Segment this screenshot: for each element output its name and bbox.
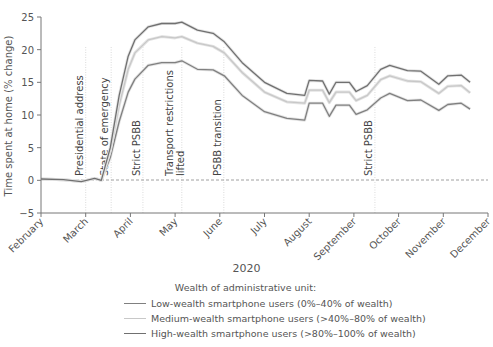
legend: Wealth of administrative unit: Low-wealt… [0,282,493,293]
x-tick-label: July [248,216,269,237]
y-tick-label: 20 [21,45,34,56]
event-label: Strict PSBB [131,120,142,176]
legend-swatch [124,303,146,304]
y-tick-label: 10 [21,110,34,121]
y-tick-label: 25 [21,12,34,23]
legend-label: Medium-wealth smartphone users (>40%–80%… [151,313,426,324]
legend-item-high-wealth: High-wealth smartphone users (>80%–100% … [124,328,416,339]
y-axis: −50510152025 [19,12,41,219]
legend-label: Low-wealth smartphone users (0%–40% of w… [151,298,392,309]
legend-item-low-wealth: Low-wealth smartphone users (0%–40% of w… [124,298,392,309]
y-tick-label: 0 [28,175,34,186]
x-tick-label: September [311,215,358,262]
x-tick-label: March [61,216,90,245]
y-tick-label: 15 [21,77,34,88]
x-tick-label: October [367,215,404,252]
event-label: Transport restrictions [164,70,175,177]
legend-swatch [124,318,146,319]
x-axis-title: 2020 [0,262,493,275]
y-tick-label: 5 [28,143,34,154]
legend-label: High-wealth smartphone users (>80%–100% … [151,328,416,339]
legend-item-medium-wealth: Medium-wealth smartphone users (>40%–80%… [124,313,426,324]
x-tick-label: May [157,216,179,238]
legend-swatch [124,333,146,334]
x-tick-label: June [200,216,224,240]
y-axis-title: Time spent at home (% change) [3,35,14,197]
x-tick-label: April [111,216,135,240]
x-tick-label: August [281,216,314,249]
line-chart: Presidential addressState of emergencySt… [0,0,493,270]
event-label: Strict PSBB [363,120,374,176]
x-tick-label: February [6,216,45,255]
y-tick-label: −5 [19,208,34,219]
event-label: lifted [175,151,186,176]
event-label: Presidential address [74,75,85,176]
x-tick-label: November [403,215,448,260]
event-label: PSBB transition [212,99,223,176]
legend-title: Wealth of administrative unit: [0,282,493,293]
x-tick-label: December [448,215,493,260]
x-axis: FebruaryMarchAprilMayJuneJulyAugustSepte… [6,213,493,263]
event-markers: Presidential addressState of emergencySt… [74,47,375,213]
